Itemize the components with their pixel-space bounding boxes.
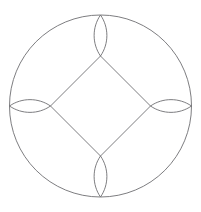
inner-diamond <box>51 56 151 156</box>
geometric-figure-svg <box>0 0 201 212</box>
lens-bottom <box>94 156 107 197</box>
lens-top <box>94 15 107 56</box>
figure-canvas <box>0 0 201 212</box>
outer-circle <box>10 15 192 197</box>
lens-left <box>10 100 51 113</box>
lens-right <box>151 100 192 113</box>
